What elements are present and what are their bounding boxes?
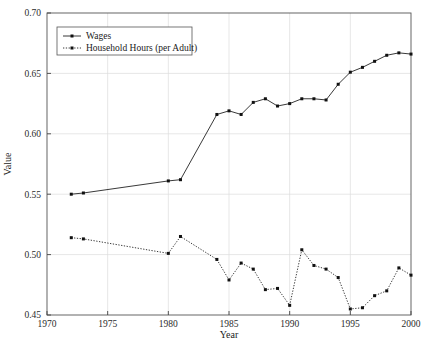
y-tick-label: 0.70 <box>24 8 41 18</box>
y-tick-label: 0.55 <box>24 190 41 200</box>
data-point-marker <box>70 193 73 196</box>
y-axis-title: Value <box>2 152 13 175</box>
data-point-marker <box>300 248 303 251</box>
series-2 <box>70 235 413 310</box>
x-tick-label: 1980 <box>159 319 178 329</box>
x-tick-label: 1975 <box>98 319 117 329</box>
data-point-marker <box>70 236 73 239</box>
data-point-marker <box>252 268 255 271</box>
y-tick-label: 0.60 <box>24 129 41 139</box>
y-tick-label: 0.65 <box>24 69 41 79</box>
data-point-marker <box>361 66 364 69</box>
x-tick-label: 1985 <box>220 319 239 329</box>
legend-label-2: Household Hours (per Adult) <box>86 43 197 54</box>
data-point-marker <box>228 278 231 281</box>
data-point-marker <box>264 97 267 100</box>
data-point-marker <box>167 252 170 255</box>
data-point-marker <box>82 191 85 194</box>
data-point-marker <box>410 274 413 277</box>
data-point-marker <box>264 288 267 291</box>
x-tick-label: 1990 <box>280 319 299 329</box>
data-point-marker <box>373 60 376 63</box>
data-point-marker <box>325 268 328 271</box>
data-point-marker <box>397 266 400 269</box>
data-point-marker <box>312 97 315 100</box>
data-point-marker <box>215 113 218 116</box>
legend-marker-sample-1 <box>71 35 74 38</box>
data-point-marker <box>337 276 340 279</box>
grid-lines <box>47 13 411 315</box>
y-tick-label: 0.50 <box>24 250 41 260</box>
x-tick-label: 1995 <box>341 319 360 329</box>
data-point-marker <box>82 237 85 240</box>
data-series-layer <box>70 51 413 310</box>
x-axis-ticks <box>47 311 411 315</box>
data-point-marker <box>252 101 255 104</box>
data-point-marker <box>337 83 340 86</box>
x-axis-tick-labels: 1970197519801985199019952000 <box>38 319 421 329</box>
x-axis-title: Year <box>220 329 239 340</box>
y-axis-ticks <box>47 13 51 315</box>
data-point-marker <box>276 287 279 290</box>
data-point-marker <box>240 113 243 116</box>
data-point-marker <box>228 109 231 112</box>
data-point-marker <box>361 306 364 309</box>
data-point-marker <box>300 97 303 100</box>
data-point-marker <box>276 105 279 108</box>
data-point-marker <box>240 262 243 265</box>
series-line <box>71 236 411 308</box>
data-point-marker <box>385 289 388 292</box>
data-point-marker <box>385 54 388 57</box>
line-chart: 1970197519801985199019952000 0.450.500.5… <box>0 0 421 342</box>
data-point-marker <box>349 71 352 74</box>
series-line <box>71 53 411 194</box>
legend-marker-sample-2 <box>71 47 74 50</box>
data-point-marker <box>325 98 328 101</box>
data-point-marker <box>215 258 218 261</box>
series-1 <box>70 51 413 195</box>
data-point-marker <box>179 178 182 181</box>
data-point-marker <box>288 304 291 307</box>
data-point-marker <box>349 307 352 310</box>
x-tick-label: 1970 <box>38 319 57 329</box>
data-point-marker <box>312 264 315 267</box>
chart-legend: WagesHousehold Hours (per Adult) <box>57 27 197 55</box>
legend-label-1: Wages <box>86 31 111 41</box>
data-point-marker <box>288 102 291 105</box>
x-tick-label: 2000 <box>402 319 421 329</box>
data-point-marker <box>179 235 182 238</box>
data-point-marker <box>397 51 400 54</box>
y-axis-tick-labels: 0.450.500.550.600.650.70 <box>24 8 41 320</box>
y-tick-label: 0.45 <box>24 310 41 320</box>
data-point-marker <box>373 294 376 297</box>
data-point-marker <box>410 53 413 56</box>
data-point-marker <box>167 179 170 182</box>
chart-container: 1970197519801985199019952000 0.450.500.5… <box>0 0 421 342</box>
